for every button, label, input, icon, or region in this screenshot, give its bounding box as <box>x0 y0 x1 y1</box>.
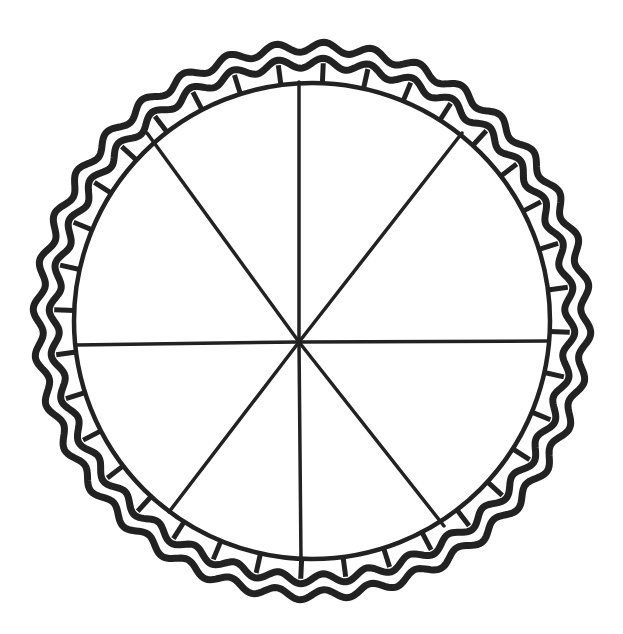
crimp-mark <box>384 548 390 567</box>
crimp-mark <box>155 116 167 132</box>
crimp-mark <box>83 431 101 440</box>
crimp-mark <box>532 412 550 420</box>
crimp-mark <box>301 559 302 579</box>
crimp-mark <box>457 510 469 526</box>
crimp-mark <box>74 222 92 230</box>
pie-inner-circle <box>74 83 550 559</box>
crimp-mark <box>539 243 558 249</box>
crust-outer-wave <box>33 42 590 599</box>
crimp-mark <box>107 466 123 478</box>
crimp-mark <box>138 496 152 511</box>
crimp-mark <box>487 482 502 496</box>
crimp-mark <box>422 532 431 550</box>
crimp-mark <box>473 131 487 146</box>
crimp-mark <box>213 541 221 559</box>
crimp-mark <box>193 92 202 110</box>
slice-line-2 <box>299 133 462 342</box>
crimp-mark <box>548 287 568 290</box>
crust-inner-wave <box>49 58 575 584</box>
crimp-mark <box>322 63 323 83</box>
crimp-mark <box>513 449 530 460</box>
crimp-mark <box>234 75 240 94</box>
slice-line-6 <box>169 342 299 512</box>
crimp-mark <box>403 83 411 101</box>
crimp-mark <box>56 352 76 355</box>
slice-line-4 <box>299 342 444 526</box>
crimp-mark <box>54 310 74 311</box>
crimp-mark <box>173 522 184 539</box>
crimp-mark <box>256 553 260 573</box>
crimp-mark <box>122 147 137 161</box>
slice-line-5 <box>299 342 301 560</box>
crimp-mark <box>60 265 80 269</box>
crimp-mark <box>501 164 517 176</box>
pie-illustration <box>0 0 623 634</box>
slice-line-3 <box>299 341 548 342</box>
crimp-mark <box>278 65 281 85</box>
crimp-mark <box>523 202 541 211</box>
crust-border <box>33 42 590 599</box>
slice-line-7 <box>76 342 299 345</box>
crimp-mark <box>343 557 346 577</box>
crimp-mark <box>440 103 451 120</box>
pie-drawing <box>0 0 623 634</box>
crimp-mark <box>544 373 564 377</box>
slice-line-8 <box>147 133 299 342</box>
crimp-mark <box>364 69 368 89</box>
crimp-mark <box>66 393 85 399</box>
crimp-mark <box>94 182 111 193</box>
slice-divider-lines <box>76 82 548 560</box>
crimp-mark <box>550 331 570 332</box>
